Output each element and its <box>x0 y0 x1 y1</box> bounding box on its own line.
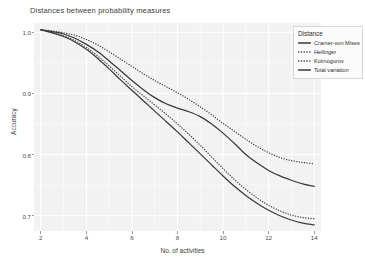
legend-item-label: Kolmogorov <box>314 57 344 65</box>
legend-title: Distance <box>298 30 359 37</box>
legend-key-icon <box>298 39 311 47</box>
x-axis-label: No. of activities <box>0 247 365 254</box>
legend-item[interactable]: Kolmogorov <box>298 57 359 65</box>
y-tick-label: 0.7 <box>0 212 31 219</box>
x-tick-mark <box>177 231 178 234</box>
legend: Distance Cramer-von MisesHellingerKolmog… <box>293 26 363 79</box>
legend-item[interactable]: Total variation <box>298 66 359 74</box>
x-tick-label: 6 <box>130 234 133 241</box>
x-tick-label: 8 <box>176 234 179 241</box>
legend-item-label: Total variation <box>314 66 349 74</box>
plot-lines <box>34 23 321 231</box>
x-tick-mark <box>132 231 133 234</box>
legend-key-icon <box>298 48 311 56</box>
x-tick-mark <box>223 231 224 234</box>
y-tick-mark <box>32 93 35 94</box>
y-axis-ticks: 0.70.80.91.0 <box>0 0 31 264</box>
y-tick-mark <box>32 215 35 216</box>
y-tick-label: 0.8 <box>0 151 31 158</box>
y-tick-mark <box>32 154 35 155</box>
legend-key-icon <box>298 57 311 65</box>
y-tick-label: 1.0 <box>0 29 31 36</box>
y-tick-mark <box>32 32 35 33</box>
x-tick-mark <box>314 231 315 234</box>
x-tick-label: 12 <box>265 234 272 241</box>
legend-key-icon <box>298 66 311 74</box>
chart-container: Distances between probability measures A… <box>0 0 365 264</box>
legend-item-label: Cramer-von Mises <box>314 39 360 47</box>
legend-item-label: Hellinger <box>314 48 336 56</box>
legend-item[interactable]: Cramer-von Mises <box>298 39 359 47</box>
plot-panel <box>34 23 321 231</box>
x-tick-mark <box>40 231 41 234</box>
x-tick-mark <box>268 231 269 234</box>
y-tick-label: 0.9 <box>0 90 31 97</box>
legend-items: Cramer-von MisesHellingerKolmogorovTotal… <box>298 39 359 74</box>
x-tick-label: 4 <box>85 234 88 241</box>
x-tick-label: 14 <box>311 234 318 241</box>
legend-item[interactable]: Hellinger <box>298 48 359 56</box>
x-tick-label: 2 <box>39 234 42 241</box>
x-tick-label: 10 <box>220 234 227 241</box>
chart-title: Distances between probability measures <box>30 6 170 15</box>
x-tick-mark <box>86 231 87 234</box>
